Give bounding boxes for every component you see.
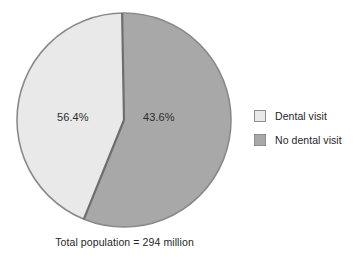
legend-label-dental-visit: Dental visit [275, 111, 327, 122]
pie-label-dental-visit: 43.6% [143, 112, 175, 123]
legend-swatch-light-icon [254, 110, 266, 122]
pie-chart-figure: 56.4% 43.6% Dental visit No dental visit… [0, 0, 357, 257]
legend: Dental visit No dental visit [254, 104, 357, 152]
legend-swatch-dark-icon [254, 134, 266, 146]
legend-label-no-dental-visit: No dental visit [275, 135, 342, 146]
pie-label-no-dental-visit: 56.4% [57, 112, 89, 123]
pie-svg [16, 9, 232, 231]
legend-item-no-dental-visit[interactable]: No dental visit [254, 128, 357, 152]
legend-item-dental-visit[interactable]: Dental visit [254, 104, 357, 128]
pie-chart-graphic [16, 9, 232, 231]
chart-caption: Total population = 294 million [0, 236, 249, 248]
